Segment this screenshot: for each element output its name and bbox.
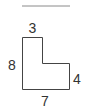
label-top: 3 bbox=[29, 20, 37, 36]
l-shape-diagram: 3 8 4 7 bbox=[0, 0, 86, 108]
l-shape-outline bbox=[23, 38, 70, 90]
label-left: 8 bbox=[8, 57, 16, 73]
label-bottom: 7 bbox=[41, 93, 49, 108]
label-right: 4 bbox=[73, 71, 81, 87]
